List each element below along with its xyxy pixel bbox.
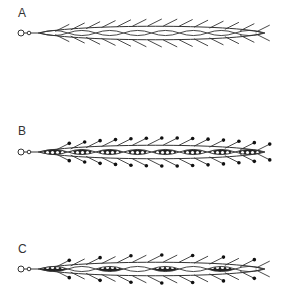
hair-tip-dot-icon [67,259,71,263]
hair [55,143,69,150]
hair-tip-dot-icon [206,137,210,141]
hair [55,271,69,278]
hair [194,139,208,146]
hair [179,40,193,47]
filament-segment [179,266,207,271]
hair [256,270,270,277]
hair [256,34,270,41]
hair [132,255,146,262]
hair-tip-dot-icon [222,279,226,283]
hair [163,19,177,26]
terminal-small-circle-icon [27,150,31,154]
filament-segment [96,266,124,271]
filament-segment [96,149,124,154]
hair-tip-dot-icon [129,163,133,167]
hair [194,20,208,27]
hair [55,24,69,31]
hair [117,39,131,46]
hair [179,159,193,166]
hair-tip-dot-icon [98,279,102,283]
terminal-large-circle-icon [18,266,24,272]
filament-a-diagram [0,0,281,70]
hair-tip-dot-icon [253,277,257,281]
filament-segment [68,266,96,271]
hair-tip-dot-icon [237,161,241,165]
filament-segment [68,149,96,154]
filament-segment [124,149,152,154]
hair-tip-dot-icon [98,162,102,166]
panel-b: B [0,120,281,200]
hair-tip-dot-icon [98,256,102,260]
filament-segment [40,266,68,271]
hair [163,138,177,145]
hair-tip-dot-icon [268,142,272,146]
hair-tip-dot-icon [191,164,195,168]
hair [148,19,162,26]
hair [163,159,177,166]
hair [148,159,162,166]
hair-tip-dot-icon [253,258,257,262]
hair-tip-dot-icon [129,280,133,284]
filament-segment [96,30,124,35]
hair-tip-dot-icon [98,139,102,143]
hair-tip-dot-icon [191,281,195,285]
hair-tip-dot-icon [175,164,179,168]
hair [117,139,131,146]
hair-tip-dot-icon [67,159,71,163]
hair-tip-dot-icon [191,137,195,141]
hair [132,138,146,145]
hair-tip-dot-icon [160,164,164,168]
hair [55,154,69,161]
hair [148,40,162,47]
hair [71,155,85,162]
hair [117,256,131,263]
hair-tip-dot-icon [206,163,210,167]
hair [132,40,146,47]
hair [55,260,69,267]
hair [71,272,85,279]
hair-tip-dot-icon [222,162,226,166]
terminal-large-circle-icon [18,30,24,36]
hair [179,255,193,262]
hair [179,138,193,145]
hair [148,255,162,262]
hair [163,276,177,283]
hair-tip-dot-icon [67,142,71,146]
hair [256,25,270,32]
hair [55,35,69,42]
filament-segment [207,266,235,271]
terminal-small-circle-icon [27,31,31,35]
hair [163,40,177,47]
filament-segment [179,149,207,154]
hair [132,19,146,26]
terminal-large-circle-icon [18,149,24,155]
hair [132,159,146,166]
hair-tip-dot-icon [67,276,71,280]
filament-segment [68,30,96,35]
hair-tip-dot-icon [145,136,149,140]
filament-segment [124,30,152,35]
hair-tip-dot-icon [253,141,257,145]
panel-a: A [0,0,281,70]
hair-tip-dot-icon [191,254,195,258]
hair-tip-dot-icon [253,160,257,164]
hair [71,23,85,30]
filament-segment [152,30,180,35]
hair-tip-dot-icon [114,163,118,167]
hair-tip-dot-icon [83,140,87,144]
panel-c: C [0,220,281,302]
filament-segment [179,30,207,35]
hair [117,158,131,165]
hair [256,153,270,160]
filament-c-diagram [0,220,281,302]
hair-tip-dot-icon [145,164,149,168]
hair [256,261,270,268]
hair-tip-dot-icon [175,136,179,140]
hair [71,142,85,149]
hair [194,275,208,282]
hair [179,276,193,283]
hair [148,276,162,283]
filament-b-diagram [0,120,281,200]
filament-segment [152,266,180,271]
filament-segment [207,30,235,35]
